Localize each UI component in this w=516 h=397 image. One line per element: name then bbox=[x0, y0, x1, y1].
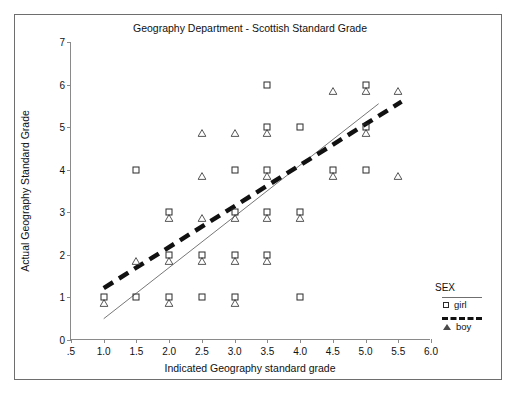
plot-area: 01234567.51.01.52.02.53.03.54.04.55.05.5… bbox=[70, 42, 430, 340]
y-tick-mark bbox=[67, 127, 71, 128]
data-point-triangle-boy bbox=[230, 123, 239, 131]
x-tick-label: 1.5 bbox=[130, 346, 144, 357]
x-tick-label: 4.0 bbox=[293, 346, 307, 357]
legend-entry-girl[interactable]: girl bbox=[434, 299, 504, 310]
data-point-triangle-boy bbox=[197, 166, 206, 174]
chart-screenshot: Geography Department - Scottish Standard… bbox=[0, 0, 516, 397]
data-point-triangle-boy bbox=[263, 166, 272, 174]
y-tick-mark bbox=[67, 170, 71, 171]
data-point-triangle-boy bbox=[99, 293, 108, 301]
chart-title: Geography Department - Scottish Standard… bbox=[70, 22, 430, 34]
y-tick-mark bbox=[67, 42, 71, 43]
x-tick-mark bbox=[235, 339, 236, 343]
x-tick-label: .5 bbox=[67, 346, 75, 357]
x-tick-mark bbox=[104, 339, 105, 343]
x-tick-mark bbox=[267, 339, 268, 343]
triangle-marker-icon bbox=[443, 324, 451, 330]
data-point-square-girl bbox=[198, 294, 205, 301]
data-point-triangle-boy bbox=[394, 166, 403, 174]
x-tick-mark bbox=[71, 339, 72, 343]
data-point-square-girl bbox=[362, 166, 369, 173]
x-tick-label: 3.5 bbox=[260, 346, 274, 357]
legend-label-girl: girl bbox=[454, 299, 467, 310]
fit-line-girl bbox=[104, 104, 379, 319]
x-tick-label: 4.5 bbox=[326, 346, 340, 357]
data-point-square-girl bbox=[231, 166, 238, 173]
x-tick-label: 5.5 bbox=[391, 346, 405, 357]
data-point-triangle-boy bbox=[328, 166, 337, 174]
data-point-triangle-boy bbox=[230, 251, 239, 259]
x-axis-label: Indicated Geography standard grade bbox=[70, 362, 430, 374]
x-tick-mark bbox=[333, 339, 334, 343]
top-cropped-text bbox=[0, 0, 516, 6]
legend-line-boy bbox=[442, 317, 482, 320]
y-axis-label: Actual Geography Standard Grade bbox=[18, 42, 32, 340]
x-tick-mark bbox=[136, 339, 137, 343]
data-point-triangle-boy bbox=[263, 208, 272, 216]
data-point-triangle-boy bbox=[197, 251, 206, 259]
data-point-triangle-boy bbox=[394, 81, 403, 89]
data-point-triangle-boy bbox=[263, 251, 272, 259]
plot-inner: 01234567.51.01.52.02.53.03.54.04.55.05.5… bbox=[71, 42, 430, 339]
x-tick-mark bbox=[202, 339, 203, 343]
data-point-square-girl bbox=[297, 294, 304, 301]
data-point-triangle-boy bbox=[230, 208, 239, 216]
data-point-triangle-boy bbox=[165, 208, 174, 216]
x-tick-label: 1.0 bbox=[97, 346, 111, 357]
fit-line-boy bbox=[104, 102, 402, 288]
x-tick-label: 3.0 bbox=[228, 346, 242, 357]
fit-lines bbox=[71, 42, 431, 340]
legend-entry-boy[interactable]: boy bbox=[434, 321, 504, 332]
y-tick-mark bbox=[67, 212, 71, 213]
data-point-square-girl bbox=[297, 124, 304, 131]
data-point-triangle-boy bbox=[296, 208, 305, 216]
legend: SEX girl boy bbox=[434, 282, 504, 332]
data-point-triangle-boy bbox=[361, 81, 370, 89]
data-point-triangle-boy bbox=[165, 293, 174, 301]
x-tick-mark bbox=[366, 339, 367, 343]
x-tick-mark bbox=[431, 339, 432, 343]
square-marker-icon bbox=[443, 302, 449, 308]
data-point-triangle-boy bbox=[263, 123, 272, 131]
y-tick-mark bbox=[67, 255, 71, 256]
legend-title: SEX bbox=[434, 282, 504, 293]
y-tick-mark bbox=[67, 297, 71, 298]
data-point-triangle-boy bbox=[165, 251, 174, 259]
x-tick-mark bbox=[300, 339, 301, 343]
data-point-triangle-boy bbox=[197, 123, 206, 131]
data-point-square-girl bbox=[264, 81, 271, 88]
y-axis-label-text: Actual Geography Standard Grade bbox=[19, 110, 31, 272]
x-tick-mark bbox=[169, 339, 170, 343]
legend-label-boy: boy bbox=[456, 321, 471, 332]
data-point-triangle-boy bbox=[328, 81, 337, 89]
y-tick-mark bbox=[67, 85, 71, 86]
x-tick-label: 2.5 bbox=[195, 346, 209, 357]
x-tick-label: 6.0 bbox=[424, 346, 438, 357]
legend-line-girl bbox=[442, 297, 482, 298]
x-tick-label: 2.0 bbox=[162, 346, 176, 357]
data-point-square-girl bbox=[133, 294, 140, 301]
x-tick-label: 5.0 bbox=[359, 346, 373, 357]
data-point-triangle-boy bbox=[132, 251, 141, 259]
data-point-triangle-boy bbox=[230, 293, 239, 301]
data-point-triangle-boy bbox=[197, 208, 206, 216]
data-point-triangle-boy bbox=[361, 123, 370, 131]
x-tick-mark bbox=[398, 339, 399, 343]
data-point-square-girl bbox=[133, 166, 140, 173]
